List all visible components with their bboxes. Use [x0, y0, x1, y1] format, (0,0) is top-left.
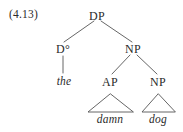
branch-dp-to-d0: [64, 21, 94, 42]
node-np-upper: NP: [125, 43, 141, 55]
terminal-damn: damn: [97, 114, 123, 126]
node-np-lower: NP: [150, 76, 166, 88]
terminal-the: the: [57, 76, 72, 88]
node-ap: AP: [102, 76, 118, 88]
example-number: (4.13): [9, 9, 38, 21]
branch-np-to-ap: [112, 55, 130, 74]
node-d-head: D°: [56, 43, 70, 55]
triangle-np-dog: [142, 94, 175, 112]
node-dp: DP: [89, 10, 105, 22]
triangle-ap-damn: [88, 94, 133, 112]
branch-dp-to-np: [101, 21, 132, 42]
syntax-tree-figure: (4.13) DP D° NP AP NP the damn dog: [0, 0, 183, 132]
branch-np-to-np: [137, 55, 157, 74]
terminal-dog: dog: [149, 114, 167, 126]
